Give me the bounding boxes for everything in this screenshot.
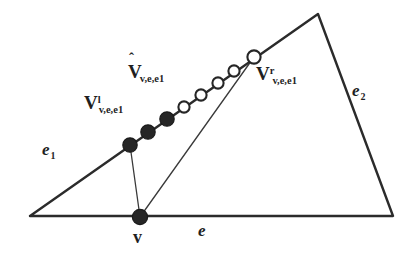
label-edge-e: e <box>198 222 206 239</box>
label-edge-e2-subscript: 2 <box>361 91 366 102</box>
label-edge-e2-base: e <box>352 81 360 100</box>
label-vertex-v: v <box>133 228 142 246</box>
v-left <box>123 138 137 152</box>
v-right <box>247 50 260 63</box>
sample-7 <box>228 65 239 76</box>
label-v-left-subscript: v,e,e1 <box>99 104 124 115</box>
label-vertex-v-base: v <box>133 227 142 247</box>
sample-4 <box>178 101 189 112</box>
label-v-right: Vrv,e,e1 <box>256 64 297 83</box>
label-v-right-base: V <box>256 63 270 84</box>
hat-accent-icon: ˆ <box>129 51 134 66</box>
outer-polygon-outline <box>30 14 393 216</box>
figure-canvas <box>0 0 413 255</box>
label-edge-e-base: e <box>198 221 206 240</box>
sample-3 <box>160 112 174 126</box>
sample-2 <box>141 125 155 139</box>
sample-6 <box>212 77 223 88</box>
label-edge-e1-subscript: 1 <box>51 150 56 161</box>
label-v-left-base: V <box>84 92 98 113</box>
label-edge-e1: e1 <box>42 141 56 158</box>
vertex-v-point <box>132 209 147 224</box>
geometry-figure: Vlv,e,e1 ˆVv,e,e1 Vrv,e,e1 e1 e2 e v <box>0 0 413 255</box>
label-v-right-subscript: v,e,e1 <box>272 75 297 86</box>
sample-5 <box>195 89 206 100</box>
label-edge-e2: e2 <box>352 82 366 99</box>
label-v-left: Vlv,e,e1 <box>84 93 123 112</box>
ray-v-to-vl <box>130 145 140 217</box>
label-v-hat-subscript: v,e,e1 <box>140 73 165 84</box>
label-v-hat: ˆVv,e,e1 <box>128 62 164 81</box>
filled-sample-points <box>123 112 174 152</box>
label-edge-e1-base: e <box>42 140 50 159</box>
